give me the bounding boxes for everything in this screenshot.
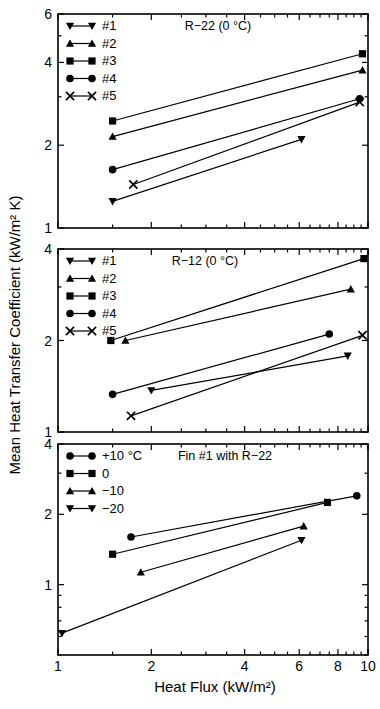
- legend-marker-circle: [66, 452, 74, 460]
- data-point-square: [360, 255, 367, 262]
- legend-label: #5: [102, 323, 116, 338]
- data-point-circle: [109, 166, 117, 174]
- data-point-circle: [325, 330, 333, 338]
- legend-label: #1: [102, 18, 116, 33]
- panel-title: Fin #1 with R−22: [178, 449, 272, 463]
- legend-marker-square: [66, 292, 73, 299]
- x-tick-label: 2: [147, 658, 155, 674]
- legend-label: 0: [102, 466, 109, 481]
- data-point-square: [109, 117, 116, 124]
- x-tick-label: 8: [334, 658, 342, 674]
- legend-label: #3: [102, 53, 116, 68]
- x-tick-label: 1: [54, 658, 62, 674]
- x-axis-label: Heat Flux (kW/m²): [154, 678, 276, 695]
- legend-marker-circle: [88, 310, 96, 318]
- y-tick-label: 4: [44, 241, 52, 257]
- y-tick-label: 2: [44, 333, 52, 349]
- y-tick-label: 1: [44, 220, 52, 236]
- data-point-square: [109, 551, 116, 558]
- figure-background: [0, 0, 380, 709]
- legend-label: #1: [102, 253, 116, 268]
- legend-label: +10 °C: [102, 448, 142, 463]
- legend-marker-square: [88, 292, 95, 299]
- y-tick-label: 1: [44, 577, 52, 593]
- legend-marker-circle: [66, 310, 74, 318]
- legend-label: #2: [102, 36, 116, 51]
- legend-marker-circle: [88, 75, 96, 83]
- legend-marker-square: [88, 470, 95, 477]
- panel-title: R−12 (0 °C): [172, 254, 238, 268]
- y-axis-label: Mean Heat Transfer Coefficient (kW/m² K): [6, 196, 23, 475]
- legend-label: −20: [102, 501, 124, 516]
- legend-marker-square: [66, 57, 73, 64]
- legend-marker-circle: [88, 452, 96, 460]
- panel-title: R−22 (0 °C): [185, 19, 251, 33]
- y-tick-label: 4: [44, 54, 52, 70]
- x-tick-label: 10: [360, 658, 376, 674]
- legend-label: #2: [102, 271, 116, 286]
- data-point-square: [324, 499, 331, 506]
- legend-label: #3: [102, 288, 116, 303]
- legend-label: #4: [102, 306, 116, 321]
- x-tick-label: 4: [241, 658, 249, 674]
- legend-marker-square: [66, 470, 73, 477]
- data-point-circle: [353, 492, 361, 500]
- legend-label: −10: [102, 483, 124, 498]
- data-point-square: [359, 50, 366, 57]
- legend-label: #5: [102, 88, 116, 103]
- heat-transfer-figure: 1246R−22 (0 °C)#1#2#3#4#5124R−12 (0 °C)#…: [0, 0, 380, 709]
- legend-marker-square: [88, 57, 95, 64]
- legend-marker-circle: [66, 75, 74, 83]
- y-tick-label: 2: [44, 506, 52, 522]
- data-point-circle: [109, 391, 117, 399]
- x-tick-label: 6: [295, 658, 303, 674]
- y-tick-label: 2: [44, 137, 52, 153]
- legend-label: #4: [102, 71, 116, 86]
- data-point-circle: [127, 533, 135, 541]
- y-tick-label: 4: [44, 436, 52, 452]
- y-tick-label: 6: [44, 6, 52, 22]
